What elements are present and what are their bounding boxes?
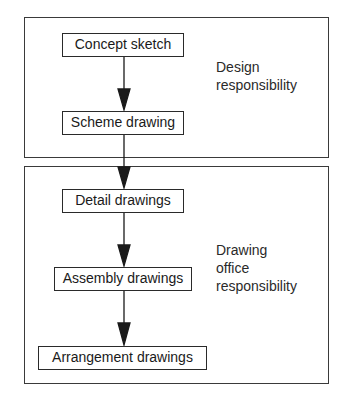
label-line: responsibility (216, 277, 297, 295)
node-detail-drawings: Detail drawings (62, 189, 184, 213)
node-scheme-drawing: Scheme drawing (62, 111, 184, 135)
arrowhead-icon (118, 323, 130, 345)
drawing-office-responsibility-label: Drawing office responsibility (216, 241, 297, 295)
label-line: responsibility (216, 76, 297, 94)
node-arrangement-drawings: Arrangement drawings (38, 346, 207, 370)
design-responsibility-label: Design responsibility (216, 58, 297, 94)
arrowhead-icon (118, 245, 130, 266)
arrowhead-icon (118, 167, 130, 188)
node-concept-sketch: Concept sketch (62, 33, 184, 57)
label-line: office (216, 259, 297, 277)
node-assembly-drawings: Assembly drawings (54, 267, 192, 291)
label-line: Design (216, 58, 297, 76)
label-line: Drawing (216, 241, 297, 259)
arrowhead-icon (118, 89, 130, 110)
